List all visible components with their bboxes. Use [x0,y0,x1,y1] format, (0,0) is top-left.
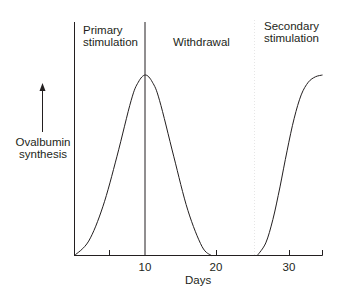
secondary-response-curve [257,75,322,256]
phase-primary-line1: Primary [83,24,138,36]
x-tick-label-10: 10 [133,261,157,273]
x-axis-label: Days [185,274,211,286]
primary-response-curve [75,75,212,256]
phase-label-primary: Primary stimulation [83,24,138,48]
y-axis-label: Ovalbumin synthesis [5,136,81,160]
arrow-up-icon [40,83,46,91]
phase-label-secondary: Secondary stimulation [264,20,319,44]
phase-label-withdrawal: Withdrawal [173,36,230,48]
ylabel-line2: synthesis [5,148,81,160]
x-tick-label-20: 20 [204,261,228,273]
phase-secondary-line1: Secondary [264,20,319,32]
phase-primary-line2: stimulation [83,36,138,48]
x-tick-label-30: 30 [277,261,301,273]
ylabel-line1: Ovalbumin [5,136,81,148]
phase-secondary-line2: stimulation [264,32,319,44]
